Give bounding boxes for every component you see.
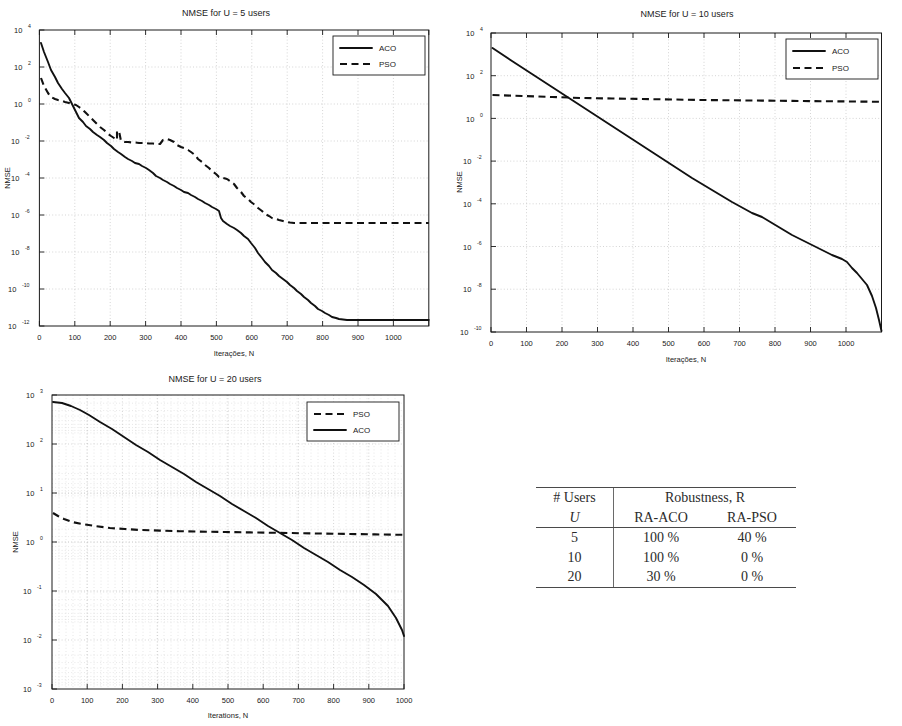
xaxis-label-u10: Iterações, N <box>666 355 706 364</box>
series-aco-u10 <box>493 48 882 331</box>
svg-text:2: 2 <box>40 437 43 443</box>
svg-text:10: 10 <box>11 174 19 183</box>
svg-text:-2: -2 <box>25 134 30 140</box>
chart-title-u10: NMSE for U = 10 users <box>641 9 734 19</box>
svg-text:500: 500 <box>662 339 675 348</box>
svg-text:2: 2 <box>480 69 483 75</box>
series-pso-u20 <box>53 513 404 535</box>
xtick-labels-u10: 0 100 200 300 400 500 600 700 800 900 10… <box>489 339 854 348</box>
legend-u20[interactable]: PSO ACO <box>307 402 399 441</box>
header-u-symbol: U <box>536 508 613 528</box>
svg-text:500: 500 <box>222 696 235 705</box>
chart-svg-u5: NMSE for U = 5 users <box>0 0 452 363</box>
svg-text:700: 700 <box>281 333 294 342</box>
svg-text:0: 0 <box>28 97 31 103</box>
svg-text:10: 10 <box>466 72 474 81</box>
svg-text:0: 0 <box>489 339 493 348</box>
table-row: 5 100 % 40 % <box>536 528 796 548</box>
header-users: # Users <box>536 488 613 508</box>
yticks-u20 <box>52 395 57 689</box>
svg-text:-12: -12 <box>22 319 30 325</box>
table-header-row-2: U RA-ACO RA-PSO <box>536 508 796 528</box>
chart-title-u5: NMSE for U = 5 users <box>182 8 270 18</box>
chart-panel-u10: NMSE for U = 10 users <box>452 0 902 370</box>
svg-text:10: 10 <box>26 440 34 449</box>
svg-text:800: 800 <box>769 339 782 348</box>
legend-label-aco-u20: ACO <box>353 426 370 435</box>
yaxis-label-u20: NMSE <box>11 531 20 553</box>
svg-text:10: 10 <box>11 248 19 257</box>
svg-text:1000: 1000 <box>396 696 413 705</box>
svg-text:100: 100 <box>81 696 94 705</box>
cell-users: 5 <box>536 528 613 548</box>
xticks-u20 <box>52 684 404 689</box>
svg-text:700: 700 <box>733 339 746 348</box>
xaxis-label-u20: Iterations, N <box>208 711 248 720</box>
yaxis-label-u10: NMSE <box>455 171 464 193</box>
svg-text:10: 10 <box>23 587 31 596</box>
svg-text:10: 10 <box>26 489 34 498</box>
svg-text:0: 0 <box>40 535 43 541</box>
svg-text:10: 10 <box>11 137 19 146</box>
svg-text:1000: 1000 <box>838 339 855 348</box>
yticks-u10 <box>491 33 496 332</box>
svg-text:300: 300 <box>139 333 152 342</box>
grid-horizontal-u10 <box>491 76 882 290</box>
svg-text:200: 200 <box>116 696 129 705</box>
svg-text:10: 10 <box>26 538 34 547</box>
svg-text:10: 10 <box>460 328 468 337</box>
svg-text:-3: -3 <box>37 682 42 688</box>
legend-label-pso-u20: PSO <box>353 410 370 419</box>
svg-text:-8: -8 <box>25 245 30 251</box>
chart-svg-u20: NMSE for U = 20 users <box>0 366 450 726</box>
header-robustness: Robustness, R <box>613 488 796 508</box>
svg-text:10: 10 <box>14 63 22 72</box>
xaxis-label-u5: Iterações, N <box>214 349 254 358</box>
svg-text:1000: 1000 <box>385 333 402 342</box>
cell-ra-aco: 100 % <box>613 548 708 568</box>
svg-text:400: 400 <box>627 339 640 348</box>
legend-label-pso-u10: PSO <box>832 64 849 73</box>
svg-text:300: 300 <box>591 339 604 348</box>
svg-text:800: 800 <box>327 696 340 705</box>
cell-ra-pso: 0 % <box>708 567 796 587</box>
svg-text:500: 500 <box>210 333 223 342</box>
legend-u5[interactable]: ACO PSO <box>333 36 425 75</box>
table-row: 20 30 % 0 % <box>536 567 796 587</box>
header-ra-pso: RA-PSO <box>708 508 796 528</box>
cell-users: 10 <box>536 548 613 568</box>
robustness-table-grid: # Users Robustness, R U RA-ACO RA-PSO 5 … <box>536 487 796 588</box>
svg-text:10: 10 <box>11 211 19 220</box>
svg-text:-2: -2 <box>37 633 42 639</box>
svg-text:900: 900 <box>352 333 365 342</box>
svg-text:10: 10 <box>463 285 471 294</box>
svg-text:10: 10 <box>26 391 34 400</box>
svg-text:600: 600 <box>257 696 270 705</box>
grid-minor-horizontal-u20 <box>52 403 404 685</box>
svg-text:-1: -1 <box>37 584 42 590</box>
svg-text:10: 10 <box>466 29 474 38</box>
svg-text:2: 2 <box>28 60 31 66</box>
svg-text:10: 10 <box>463 200 471 209</box>
svg-text:-6: -6 <box>25 208 30 214</box>
svg-text:900: 900 <box>363 696 376 705</box>
series-pso-u10 <box>493 95 882 102</box>
grid-horizontal-u5 <box>39 67 428 289</box>
cell-ra-aco: 100 % <box>613 528 708 548</box>
svg-text:400: 400 <box>187 696 200 705</box>
table-header-row-1: # Users Robustness, R <box>536 488 796 508</box>
xtick-labels-u5: 0 100 200 300 400 500 600 700 800 900 10… <box>37 333 401 342</box>
svg-text:4: 4 <box>480 26 483 32</box>
cell-ra-pso: 0 % <box>708 548 796 568</box>
svg-text:10: 10 <box>23 636 31 645</box>
svg-text:200: 200 <box>104 333 117 342</box>
yticks-u5 <box>39 30 44 326</box>
svg-text:0: 0 <box>50 696 54 705</box>
svg-text:10: 10 <box>463 243 471 252</box>
svg-text:600: 600 <box>246 333 259 342</box>
legend-label-pso-u5: PSO <box>379 60 396 69</box>
legend-u10[interactable]: ACO PSO <box>786 39 878 79</box>
svg-text:200: 200 <box>556 339 569 348</box>
svg-text:0: 0 <box>480 112 483 118</box>
chart-panel-u20: NMSE for U = 20 users <box>0 366 450 726</box>
